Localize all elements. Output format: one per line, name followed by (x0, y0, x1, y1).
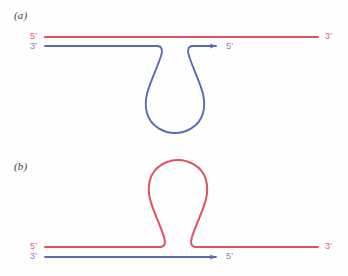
strand-diagram-svg (0, 0, 348, 276)
panel-b-arrow-end-label: 5' (226, 251, 233, 261)
panel-a-right-top-label: 3' (325, 31, 332, 41)
figure-canvas: (a) (b) 5' 3' 3' 5' 5' 3' 3' 5' (0, 0, 348, 276)
panel-a-blue-looped-strand (45, 46, 216, 133)
panel-b-red-looped-strand (45, 160, 318, 247)
panel-a-arrow-end-label: 5' (226, 41, 233, 51)
panel-b-left-bottom-label: 3' (30, 251, 37, 261)
panel-a-left-bottom-label: 3' (30, 41, 37, 51)
panel-b-left-top-label: 5' (30, 241, 37, 251)
panel-a-left-top-label: 5' (30, 31, 37, 41)
panel-b-right-top-label: 3' (325, 241, 332, 251)
